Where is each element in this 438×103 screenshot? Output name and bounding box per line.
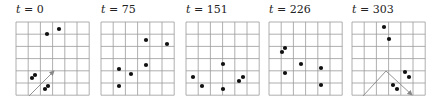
panel-0 — [16, 22, 89, 96]
panel-3 — [269, 22, 342, 95]
particle-dot — [319, 83, 323, 87]
grid — [101, 22, 174, 95]
particle-dot — [319, 66, 323, 70]
panel-title-1: t = 75 — [101, 3, 136, 16]
particle-dot — [407, 75, 411, 79]
grid — [16, 22, 89, 95]
particle-dot — [165, 42, 169, 46]
time-variable: t — [352, 3, 356, 16]
panel-title-4: t = 303 — [352, 3, 394, 16]
particle-dot — [43, 87, 47, 91]
particle-dot — [403, 70, 407, 74]
direction-arrow — [29, 71, 54, 96]
panel-4 — [352, 22, 425, 96]
particle-dot — [30, 76, 34, 80]
grid — [269, 22, 342, 95]
particle-dot — [45, 32, 49, 36]
panel-title-2: t = 151 — [186, 3, 228, 16]
particle-dot — [144, 38, 148, 42]
time-value: = 226 — [277, 3, 311, 16]
grid — [352, 22, 425, 95]
time-value: = 0 — [24, 3, 44, 16]
time-variable: t — [269, 3, 273, 16]
particle-dot — [221, 87, 225, 91]
particle-dot — [283, 71, 287, 75]
trajectory-line — [363, 71, 386, 96]
panel-title-3: t = 226 — [269, 3, 311, 16]
time-variable: t — [16, 3, 20, 16]
particle-dot — [129, 72, 133, 76]
particle-dot — [387, 37, 391, 41]
particle-dot — [200, 84, 204, 88]
timeline-figure: t = 0 t = 75 t = 151 t = 226 t = 303 — [0, 0, 438, 103]
particle-dot — [395, 87, 399, 91]
particle-dot — [46, 84, 50, 88]
particle-dot — [237, 79, 241, 83]
particle-dot — [280, 50, 284, 54]
time-variable: t — [186, 3, 190, 16]
particle-dot — [117, 67, 121, 71]
time-value: = 303 — [360, 3, 394, 16]
particle-dot — [382, 25, 386, 29]
particle-dot — [117, 84, 121, 88]
particle-dot — [283, 46, 287, 50]
particle-dot — [221, 62, 225, 66]
particle-dot — [391, 83, 395, 87]
time-variable: t — [101, 3, 105, 16]
particle-dot — [33, 73, 37, 77]
panel-title-0: t = 0 — [16, 3, 44, 16]
grid — [186, 22, 259, 95]
panel-1 — [101, 22, 174, 95]
particle-dot — [241, 75, 245, 79]
time-value: = 75 — [109, 3, 136, 16]
particle-dot — [191, 75, 195, 79]
particle-dot — [144, 63, 148, 67]
panel-2 — [186, 22, 259, 95]
particle-dot — [57, 27, 61, 31]
time-value: = 151 — [194, 3, 228, 16]
particle-dot — [299, 62, 303, 66]
